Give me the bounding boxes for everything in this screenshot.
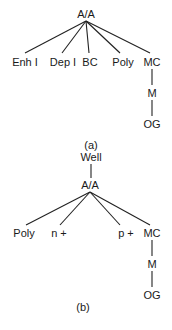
tree-a-node-bc: BC xyxy=(82,56,97,68)
tree-a-node-dep: Dep I xyxy=(50,56,76,68)
tree-a-node-poly: Poly xyxy=(112,56,133,68)
tree-b-node-n-plus: n + xyxy=(51,227,67,239)
tree-b-node-poly: Poly xyxy=(13,227,34,239)
tree-b-node-m: M xyxy=(147,258,156,270)
tree-a-node-enh: Enh I xyxy=(12,56,38,68)
tree-edges xyxy=(0,0,172,330)
tree-a-node-mc: MC xyxy=(143,56,160,68)
tree-a-node-og: OG xyxy=(143,118,160,130)
tree-b-node-p-plus: p + xyxy=(118,227,134,239)
tree-a-caption: (a) xyxy=(84,139,97,151)
tree-b-top-node: Well xyxy=(80,151,101,163)
tree-b-node-og: OG xyxy=(143,289,160,301)
tree-a-node-m: M xyxy=(147,87,156,99)
tree-b-root-node: A/A xyxy=(81,179,99,191)
tree-b-caption: (b) xyxy=(76,301,89,313)
tree-a-root-node: A/A xyxy=(77,8,95,20)
tree-b-node-mc: MC xyxy=(143,227,160,239)
